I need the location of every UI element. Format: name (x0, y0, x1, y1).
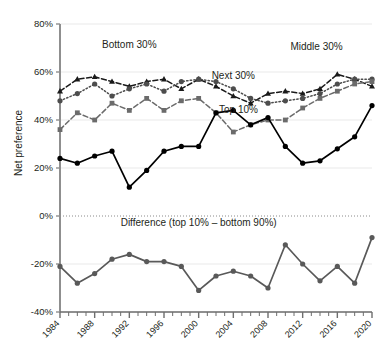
data-point (144, 168, 149, 173)
data-point (196, 288, 201, 293)
x-tick-label: 2008 (248, 318, 269, 339)
x-tick-label: 2016 (318, 318, 339, 339)
x-tick-label: 2000 (179, 318, 200, 339)
data-point (317, 278, 322, 283)
data-point (335, 146, 340, 151)
y-tick-label: 20% (34, 162, 54, 173)
y-tick-label: 80% (34, 18, 54, 29)
data-point (300, 106, 305, 111)
data-point (300, 261, 305, 266)
x-axis-minor-ticks (60, 312, 372, 318)
series-top-10 (57, 103, 374, 190)
data-point (144, 259, 149, 264)
data-point (92, 74, 98, 79)
data-point (369, 103, 374, 108)
y-tick-label: 60% (34, 66, 54, 77)
data-point (179, 264, 184, 269)
data-point (57, 156, 62, 161)
data-point (265, 101, 270, 106)
data-point (75, 161, 80, 166)
data-point (369, 235, 374, 240)
data-point (352, 281, 357, 286)
annotation-bottom30: Bottom 30% (102, 39, 157, 50)
annotations: Bottom 30%Middle 30%Next 30%Top 10%Diffe… (102, 39, 343, 228)
annotation-top10: Top 10% (219, 104, 258, 115)
data-point (92, 118, 97, 123)
data-point (110, 101, 115, 106)
data-point (179, 98, 184, 103)
data-point (335, 264, 340, 269)
data-point (196, 96, 201, 101)
data-point (75, 91, 80, 96)
data-point (57, 98, 62, 103)
data-point (300, 161, 305, 166)
data-point (127, 185, 132, 190)
annotation-difference: Difference (top 10% – bottom 90%) (121, 217, 277, 228)
annotation-next30: Next 30% (212, 70, 255, 81)
data-point (318, 96, 323, 101)
data-point (127, 108, 132, 113)
data-point (162, 108, 167, 113)
data-point (144, 96, 149, 101)
data-point (283, 144, 288, 149)
data-point (300, 96, 305, 101)
data-point (352, 82, 357, 87)
data-point (213, 273, 218, 278)
data-point (231, 86, 236, 91)
data-point (75, 110, 80, 115)
series-line (60, 106, 372, 188)
data-point (283, 242, 288, 247)
data-point (265, 285, 270, 290)
gridlines (60, 24, 372, 312)
data-point (317, 91, 322, 96)
data-point (213, 110, 218, 115)
data-point (231, 269, 236, 274)
x-tick-label: 1988 (75, 318, 96, 339)
y-tick-label: -40% (31, 306, 54, 317)
data-point (265, 115, 270, 120)
data-point (161, 89, 166, 94)
y-tick-label: 40% (34, 114, 54, 125)
data-point (127, 86, 132, 91)
data-point (92, 81, 97, 86)
data-point (283, 118, 288, 123)
data-point (109, 257, 114, 262)
y-tick-label: 0% (39, 210, 53, 221)
data-point (58, 127, 63, 132)
data-point (92, 153, 97, 158)
annotation-middle30: Middle 30% (290, 41, 342, 52)
x-tick-label: 2020 (352, 318, 373, 339)
data-point (92, 271, 97, 276)
data-point (335, 89, 340, 94)
data-point (109, 93, 114, 98)
data-point (248, 96, 253, 101)
data-point (127, 252, 132, 257)
y-axis-title: Net preference (13, 109, 24, 176)
data-point (352, 134, 357, 139)
x-tick-label: 2004 (214, 318, 235, 339)
data-point (161, 149, 166, 154)
data-point (248, 122, 253, 127)
data-point (248, 273, 253, 278)
x-tick-label: 1996 (144, 318, 165, 339)
data-point (370, 79, 375, 84)
data-point (196, 144, 201, 149)
data-point (57, 264, 62, 269)
x-tick-label: 2012 (283, 318, 304, 339)
data-point (231, 130, 236, 135)
y-tick-label: -20% (31, 258, 54, 269)
data-point (179, 79, 184, 84)
x-tick-label: 1992 (110, 318, 131, 339)
net-preference-chart: 80%60%40%20%0%-20%-40%198419881992199620… (0, 0, 382, 362)
data-point (352, 77, 357, 82)
data-point (179, 144, 184, 149)
data-point (161, 259, 166, 264)
data-point (335, 81, 340, 86)
data-point (196, 77, 201, 82)
data-point (317, 158, 322, 163)
data-point (75, 281, 80, 286)
chart-canvas: 80%60%40%20%0%-20%-40%198419881992199620… (0, 0, 382, 362)
data-point (283, 98, 288, 103)
data-point (144, 81, 149, 86)
x-tick-label: 1984 (40, 318, 61, 339)
